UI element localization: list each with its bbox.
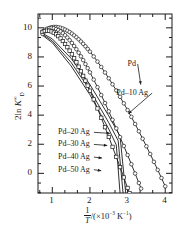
x-tick-label: 4 [162,196,167,205]
marker-pd [107,77,111,81]
marker-pd [92,55,96,59]
marker-pd-10ag [99,93,103,97]
marker-pd [160,176,164,180]
marker-pd-20ag [66,45,69,48]
marker-pd [145,144,149,148]
marker-pd-10ag [122,144,126,148]
marker-pd-10ag [111,118,115,122]
x-tick-label: 3 [125,196,130,205]
marker-pd-20ag [86,84,89,87]
annotation-label: Pd [128,60,136,68]
marker-pd-10ag [139,187,143,191]
marker-pd-20ag [96,107,99,110]
marker-pd-10ag [75,47,79,51]
y-tick-label: 6 [27,81,32,90]
y-axis-label: 2ln K∞D [13,92,23,120]
leader-arrowhead [139,81,142,85]
marker-pd-10ag [130,162,134,166]
marker-pd-10ag [79,55,83,59]
x-tick-label: 2 [87,196,92,205]
marker-pd [163,185,167,189]
x-axis-label-units: K [115,211,123,221]
marker-pd [156,168,160,172]
marker-pd [96,60,100,64]
marker-pd-20ag [111,145,114,148]
x-axis-label: 1 T /(×10−3 K−1) [84,206,132,225]
marker-pd [152,160,156,164]
marker-pd-20ag [92,98,95,101]
x-axis-label-denominator-symbol: T [85,215,90,225]
marker-pd-20ag [118,165,121,168]
marker-pd-10ag [88,71,92,75]
figure-arrhenius-plot: 1234 0246810 PdPd–10 AgPd–20 AgPd–30 AgP… [0,0,195,232]
marker-pd-10ag [81,58,85,62]
marker-pd-20ag [81,74,84,77]
marker-pd-10ag [103,101,107,105]
marker-pd-10ag [92,78,96,82]
marker-pd-20ag [126,186,129,189]
marker-pd-10ag [72,44,76,48]
marker-pd [99,65,103,69]
y-axis-label-prefix: 2ln [13,106,23,120]
marker-pd-10ag [126,153,130,157]
marker-pd-20ag [72,57,75,60]
marker-pd [148,152,152,156]
annotation-label: Pd–10 Ag [116,89,148,97]
marker-pd [88,50,92,54]
marker-pd-10ag [137,181,141,185]
marker-pd-10ag [86,66,90,70]
marker-pd [126,108,130,112]
marker-pd-20ag [122,176,125,179]
x-axis-label-fraction: 1 T [84,206,91,225]
x-tick-label: 1 [49,196,54,205]
marker-pd [133,122,137,126]
marker-pd-20ag [68,49,71,52]
marker-pd-10ag [84,62,88,66]
annotation-label: Pd–40 Ag [58,153,90,161]
x-axis-label-units-open: /(×10 [91,211,110,221]
annotation-label: Pd–50 Ag [58,166,90,174]
y-axis-label-symbol: K [13,100,23,106]
marker-pd-10ag [118,135,122,139]
y-tick-label: 0 [27,168,32,177]
y-axis-label-subscript: D [19,92,25,96]
marker-pd-10ag [96,85,100,89]
marker-pd-20ag [75,61,78,64]
leader-arrowhead [104,144,108,147]
y-tick-label: 10 [22,23,32,32]
marker-pd [122,102,126,106]
annotation-label: Pd–20 Ag [58,128,90,136]
marker-pd-20ag [84,79,87,82]
marker-pd [130,115,134,119]
marker-pd-20ag [103,126,106,129]
annotation-label: Pd–30 Ag [58,140,90,148]
y-tick-label: 4 [27,110,32,119]
marker-pd-20ag [77,65,80,68]
marker-pd-20ag [107,135,110,138]
marker-pd-10ag [77,51,81,55]
marker-pd [137,130,141,134]
marker-pd-10ag [133,172,137,176]
y-axis-label-superscript: ∞ [12,96,18,100]
marker-pd [103,71,107,75]
marker-pd-20ag [70,53,73,56]
marker-pd [141,137,145,141]
marker-pd-20ag [79,69,82,72]
marker-pd-20ag [88,89,91,92]
marker-pd-10ag [107,110,111,114]
marker-pd [111,82,115,86]
y-tick-label: 8 [27,52,32,61]
marker-pd-20ag [115,155,118,158]
y-tick-label: 2 [27,139,32,148]
marker-pd-10ag [114,127,118,131]
x-axis-label-units-close: ) [129,211,132,221]
marker-pd-20ag [100,116,103,119]
x-axis-label-denominator: T [84,216,91,225]
